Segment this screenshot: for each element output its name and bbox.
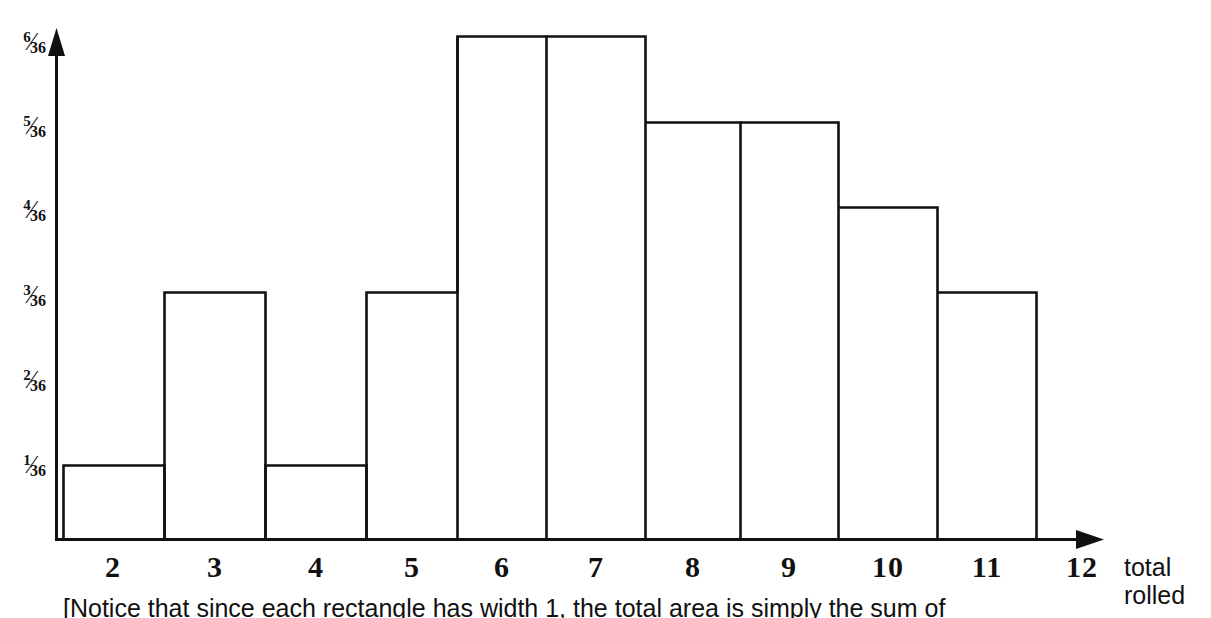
x-tick-4: 4 [281,552,351,582]
x-tick-7: 7 [561,552,631,582]
x-tick-2: 2 [78,552,148,582]
x-axis-tick-labels: 2 3 4 5 6 7 8 9 10 11 12 [0,0,1211,618]
x-tick-8: 8 [658,552,728,582]
figure-caption: [Notice that since each rectangle has wi… [63,596,1163,618]
x-tick-10: 10 [853,552,923,582]
x-tick-11: 11 [952,552,1022,582]
x-tick-3: 3 [180,552,250,582]
x-axis-title-line-1: total [1124,553,1211,581]
x-tick-6: 6 [467,552,537,582]
probability-histogram-figure: 6⁄36 5⁄36 4⁄36 3⁄36 2⁄36 1⁄36 [0,0,1211,618]
x-tick-5: 5 [377,552,447,582]
x-tick-9: 9 [754,552,824,582]
x-tick-12: 12 [1047,552,1117,582]
